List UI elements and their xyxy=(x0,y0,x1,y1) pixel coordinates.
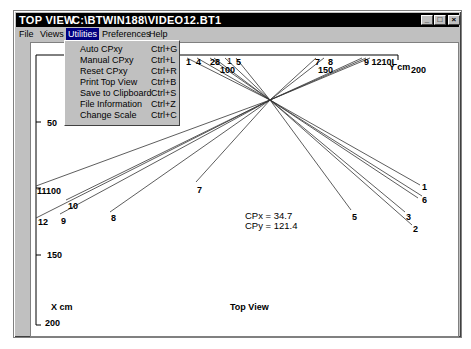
ray-label: 7 xyxy=(315,57,320,67)
y-tick-100: 100 xyxy=(220,65,235,75)
ray-label: 9 xyxy=(61,216,66,226)
ray-label: 8 xyxy=(111,213,116,223)
menu-item-file-information[interactable]: File Information Ctrl+Z xyxy=(65,99,179,110)
menu-item-manual-cpxy[interactable]: Manual CPxy Ctrl+L xyxy=(65,55,179,66)
x-tick-150: 150 xyxy=(47,250,62,260)
x-tick-200: 200 xyxy=(45,318,60,328)
menu-item-change-scale[interactable]: Change Scale Ctrl+C xyxy=(65,110,179,121)
ray-label: 9 1210L xyxy=(364,57,397,67)
ray-label: 4 xyxy=(196,57,201,67)
ray-label: 6 xyxy=(422,195,427,205)
ray-label: 1 xyxy=(422,182,427,192)
ray-label: 3 xyxy=(406,212,411,222)
ray-label: 5 xyxy=(352,212,357,222)
ray-label: 12 xyxy=(38,217,48,227)
x-axis-label: X cm xyxy=(51,302,73,312)
utilities-dropdown-menu: Auto CPxy Ctrl+G Manual CPxy Ctrl+L Rese… xyxy=(64,40,180,126)
menu-item-save-to-clipboard[interactable]: Save to Clipboard Ctrl+S xyxy=(65,88,179,99)
ray-label: 28 xyxy=(210,57,220,67)
x-tick-50: 50 xyxy=(47,118,57,128)
ray-label: 10 xyxy=(68,201,78,211)
menu-item-auto-cpxy[interactable]: Auto CPxy Ctrl+G xyxy=(65,44,179,55)
ray-label: 1 xyxy=(227,56,232,66)
ray-label: 5 xyxy=(236,57,241,67)
ray-label: 11100 xyxy=(37,186,61,196)
menu-item-reset-cpxy[interactable]: Reset CPxy Ctrl+R xyxy=(65,66,179,77)
ray-label: 2 xyxy=(413,224,418,234)
ray-label: 1 xyxy=(186,57,191,67)
cpy-value: CPy = 121.4 xyxy=(245,221,298,231)
plot-title: Top View xyxy=(230,302,269,312)
y-tick-200: 200 xyxy=(411,65,426,75)
ray-label: 7 xyxy=(197,185,202,195)
ray-label: 8 xyxy=(328,57,333,67)
menu-item-print-top-view[interactable]: Print Top View Ctrl+B xyxy=(65,77,179,88)
